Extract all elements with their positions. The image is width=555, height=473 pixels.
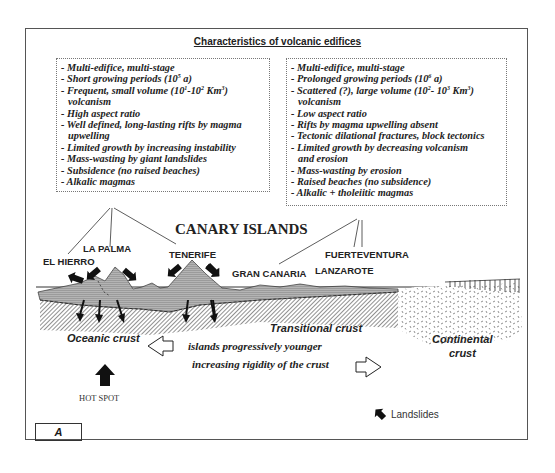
hotspot-arrow-icon: [95, 364, 115, 386]
hollow-arrow-left-icon: [148, 336, 173, 356]
island-label-fuerteventura: FUERTEVENTURA: [325, 249, 409, 260]
island-label-la-palma: LA PALMA: [83, 243, 131, 254]
region-label: CANARY ISLANDS: [175, 221, 308, 238]
island-label-el-hierro: EL HIERRO: [43, 256, 95, 267]
continental-crust-label-2: crust: [449, 347, 476, 359]
legend-landslides-label: Landslides: [391, 409, 439, 420]
continental-crust-label: Continental: [432, 333, 493, 345]
hollow-arrow-right-icon: [356, 357, 381, 377]
panel-label: A: [35, 423, 82, 441]
hotspot-label: HOT SPOT: [79, 393, 119, 403]
landslide-arrow-icon: [371, 405, 388, 422]
island-label-gran-canaria: GRAN CANARIA: [232, 268, 306, 279]
oceanic-crust-label: Oceanic crust: [67, 332, 140, 344]
note-rigidity: increasing rigidity of the crust: [192, 358, 329, 370]
transitional-crust-label: Transitional crust: [270, 322, 362, 334]
island-label-tenerife: TENERIFE: [169, 249, 216, 260]
note-younger: islands progressively younger: [188, 340, 322, 352]
island-label-lanzarote: LANZAROTE: [315, 265, 374, 276]
